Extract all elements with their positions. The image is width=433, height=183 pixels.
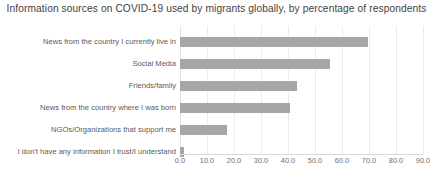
category-label: Social Media [133,53,176,75]
x-tick-label: 60.0 [335,156,349,165]
chart-title: Information sources on COVID-19 used by … [0,3,433,14]
x-tick-label: 70.0 [362,156,376,165]
bar [180,103,290,113]
x-axis-line [180,154,423,155]
x-tick-label: 40.0 [281,156,295,165]
x-tick-label: 20.0 [227,156,241,165]
bar-row: News from the country I currently live i… [0,31,433,53]
x-tick-label: 0.0 [175,156,185,165]
plot-area: News from the country I currently live i… [0,26,433,154]
bar-track [180,53,423,75]
x-axis: 0.010.020.030.040.050.060.070.080.090.0 [180,154,423,168]
bar-rows: News from the country I currently live i… [0,26,433,154]
bar-track [180,119,423,141]
bar-chart: Information sources on COVID-19 used by … [0,0,433,183]
bar [180,59,330,69]
bar-row: NGOs/Organizations that support me [0,119,433,141]
bar-track [180,31,423,53]
bar-track [180,97,423,119]
x-tick-label: 10.0 [200,156,214,165]
bar-row: Social Media [0,53,433,75]
category-label: I don't have any information I trust/I u… [18,141,176,163]
bar-row: News from the country where I was born [0,97,433,119]
category-label: News from the country where I was born [40,97,176,119]
category-label: NGOs/Organizations that support me [51,119,176,141]
bar [180,37,368,47]
x-tick-label: 50.0 [308,156,322,165]
bar [180,125,227,135]
category-label: Friends/family [129,75,176,97]
bar-row: Friends/family [0,75,433,97]
x-tick-label: 80.0 [389,156,403,165]
category-label: News from the country I currently live i… [43,31,176,53]
bar [180,81,297,91]
x-tick-label: 30.0 [254,156,268,165]
bar-track [180,75,423,97]
x-tick-label: 90.0 [416,156,430,165]
